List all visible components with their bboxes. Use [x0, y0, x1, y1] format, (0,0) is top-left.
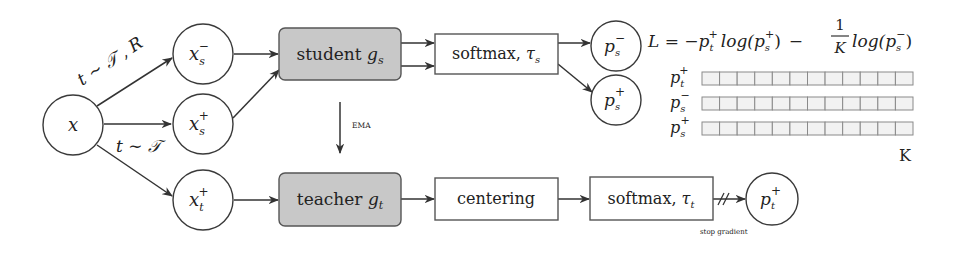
dist-row-label-ps-neg: ps−: [670, 89, 690, 114]
diagram-canvas: t ∼ 𝒯 , R t ∼ 𝒯 EMA stop gradient x xs− …: [0, 0, 957, 253]
dist-cell: [895, 72, 913, 85]
dist-cell: [878, 122, 896, 135]
dist-cell: [878, 72, 896, 85]
node-xt-pos: xt+: [173, 170, 233, 230]
node-pt-pos: pt+: [746, 173, 798, 225]
dist-cell: [755, 97, 773, 110]
dist-cell: [860, 97, 878, 110]
dist-cell: [895, 122, 913, 135]
dist-cell: [737, 72, 755, 85]
dist-cell: [825, 97, 843, 110]
box-softmax-student: softmax, τs: [435, 34, 558, 74]
dist-cell: [737, 122, 755, 135]
dist-cell: [755, 72, 773, 85]
node-ps-pos: ps+: [591, 75, 641, 125]
node-xs-pos: xs+: [173, 94, 233, 154]
node-xs-neg: xs−: [173, 24, 233, 84]
box-softmax-teacher: softmax, τt: [590, 177, 713, 220]
label-aug-pos: t ∼ 𝒯: [116, 136, 166, 156]
edge-softmax-to-ps-pos: [558, 64, 592, 92]
dist-cell: [808, 97, 826, 110]
dist-cell: [772, 97, 790, 110]
dist-cell: [860, 72, 878, 85]
dist-row-label-pt-pos: pt+: [670, 64, 689, 89]
pipeline-diagram: t ∼ 𝒯 , R t ∼ 𝒯 EMA stop gradient x xs− …: [0, 0, 957, 253]
dist-cell: [808, 72, 826, 85]
dist-cell: [772, 72, 790, 85]
loss-term2: log(ps−): [852, 28, 912, 53]
dist-cell: [843, 122, 861, 135]
dist-cell: [825, 122, 843, 135]
dist-cell: [772, 122, 790, 135]
dist-cell: [843, 97, 861, 110]
box-centering: centering: [435, 178, 558, 220]
box-label: softmax, τs: [452, 44, 540, 65]
loss-lhs-and-term1: L = −pt+log(ps+)−: [647, 28, 803, 53]
loss-equation: L = −pt+log(ps+)− 1 K log(ps−): [647, 16, 912, 57]
distribution-bars: pt+ ps− ps+ K: [670, 64, 913, 165]
svg-text:pt+: pt+: [670, 64, 689, 89]
dist-cell: [895, 97, 913, 110]
node-ps-neg: ps−: [591, 21, 641, 71]
svg-text:ps+: ps+: [670, 114, 690, 139]
edge-xs-pos-to-student: [233, 70, 279, 118]
box-label: centering: [457, 189, 535, 208]
dist-bar-ps-pos: [702, 122, 913, 135]
node-input-x: x: [43, 95, 103, 155]
dist-cell: [702, 122, 720, 135]
fraction-1-over-k: 1 K: [831, 16, 849, 57]
dist-cell: [755, 122, 773, 135]
label-stop-gradient: stop gradient: [700, 228, 748, 236]
dist-cell: [808, 122, 826, 135]
dist-cell: [720, 122, 738, 135]
dist-cell: [790, 97, 808, 110]
svg-text:ps−: ps−: [670, 89, 690, 114]
box-student: student gs: [279, 28, 401, 80]
dist-cell: [843, 72, 861, 85]
dist-bar-ps-neg: [702, 97, 913, 110]
box-label: softmax, τt: [608, 189, 696, 210]
dist-cell: [860, 122, 878, 135]
box-label: teacher gt: [297, 189, 384, 212]
box-label: student gs: [296, 44, 384, 67]
dist-cell: [702, 97, 720, 110]
dist-cell: [878, 97, 896, 110]
fraction-numerator: 1: [835, 16, 845, 34]
dist-cell: [702, 72, 720, 85]
box-teacher: teacher gt: [279, 173, 401, 226]
dist-cell: [720, 97, 738, 110]
node-label: x: [68, 114, 78, 135]
dist-bar-pt-pos: [702, 72, 913, 85]
dist-cell: [790, 72, 808, 85]
label-ema: EMA: [352, 121, 371, 130]
dimension-label-k: K: [899, 146, 912, 165]
fraction-denominator: K: [833, 39, 846, 57]
dist-cell: [737, 97, 755, 110]
dist-cell: [720, 72, 738, 85]
dist-row-label-ps-pos: ps+: [670, 114, 690, 139]
dist-cell: [825, 72, 843, 85]
dist-cell: [790, 122, 808, 135]
